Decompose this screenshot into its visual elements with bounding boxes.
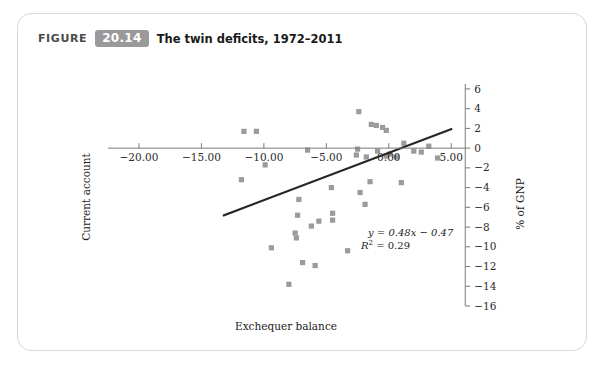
data-point bbox=[356, 109, 361, 114]
y-tick-label: −12 bbox=[474, 260, 496, 272]
data-point bbox=[401, 141, 406, 146]
y-tick-label: −6 bbox=[474, 201, 490, 213]
y-tick-label: 0 bbox=[474, 142, 481, 154]
y-axis-ticks: 6420−2−4−6−8−10−12−14−16 bbox=[465, 83, 496, 312]
y-tick-label: −10 bbox=[474, 240, 496, 252]
r-squared-value: = 0.29 bbox=[373, 240, 410, 251]
y-tick-label: −4 bbox=[474, 181, 490, 193]
data-point bbox=[384, 128, 389, 133]
data-point bbox=[316, 219, 321, 224]
data-point bbox=[362, 202, 367, 207]
data-point bbox=[313, 263, 318, 268]
x-axis-title: Exchequer balance bbox=[235, 320, 337, 332]
figure-header: FIGURE 20.14 The twin deficits, 1972–201… bbox=[38, 30, 343, 47]
data-point bbox=[296, 197, 301, 202]
data-point bbox=[295, 213, 300, 218]
figure-label: FIGURE bbox=[38, 32, 87, 45]
data-point bbox=[374, 123, 379, 128]
data-point bbox=[330, 211, 335, 216]
y-tick-label: −16 bbox=[474, 300, 496, 312]
data-point bbox=[345, 248, 350, 253]
data-point bbox=[329, 185, 334, 190]
regression-equation: y = 0.48x − 0.47 bbox=[367, 227, 454, 238]
x-tick-label: 5.00 bbox=[440, 151, 463, 163]
data-point bbox=[369, 122, 374, 127]
data-point bbox=[355, 147, 360, 152]
y-tick-label: −2 bbox=[474, 161, 489, 173]
secondary-axis-title: % of GNP bbox=[514, 178, 526, 230]
r-squared-annotation: R2 = 0.29 bbox=[360, 239, 410, 251]
trend-line bbox=[224, 129, 451, 215]
data-point bbox=[294, 235, 299, 240]
data-point bbox=[364, 154, 369, 159]
y-tick-label: 6 bbox=[474, 83, 481, 95]
x-tick-label: −5.00 bbox=[310, 151, 342, 163]
data-point bbox=[309, 223, 314, 228]
data-point bbox=[254, 129, 259, 134]
data-point bbox=[330, 218, 335, 223]
data-point bbox=[411, 148, 416, 153]
data-point bbox=[419, 149, 424, 154]
figure-number-badge: 20.14 bbox=[95, 30, 148, 47]
y-tick-label: −8 bbox=[474, 221, 489, 233]
data-point bbox=[357, 190, 362, 195]
data-point bbox=[269, 245, 274, 250]
y-axis-title: Current account bbox=[80, 152, 92, 240]
data-point bbox=[286, 282, 291, 287]
x-tick-label: −20.00 bbox=[120, 151, 159, 163]
data-point bbox=[354, 152, 359, 157]
data-point bbox=[399, 180, 404, 185]
y-tick-label: 2 bbox=[474, 122, 481, 134]
y-tick-label: 4 bbox=[474, 102, 481, 114]
figure-card: FIGURE 20.14 The twin deficits, 1972–201… bbox=[17, 13, 587, 351]
x-tick-label: −10.00 bbox=[244, 151, 283, 163]
chart-canvas: −20.00−15.00−10.00−5.000.005.00 6420−2−4… bbox=[18, 62, 588, 352]
scatter-plot: −20.00−15.00−10.00−5.000.005.00 6420−2−4… bbox=[18, 62, 588, 352]
data-point bbox=[241, 129, 246, 134]
x-tick-label: −15.00 bbox=[182, 151, 221, 163]
figure-caption: The twin deficits, 1972–2011 bbox=[157, 32, 343, 46]
data-point bbox=[239, 177, 244, 182]
data-point bbox=[293, 230, 298, 235]
y-tick-label: −14 bbox=[474, 280, 496, 292]
data-point bbox=[367, 179, 372, 184]
data-point bbox=[300, 260, 305, 265]
x-tick-label: 0.00 bbox=[377, 151, 400, 163]
